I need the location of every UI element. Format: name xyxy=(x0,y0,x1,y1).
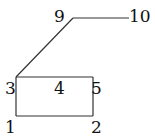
node-label-9: 9 xyxy=(54,6,65,26)
node-label-10: 10 xyxy=(129,6,151,26)
node-label-1: 1 xyxy=(5,117,16,137)
node-label-4: 4 xyxy=(54,78,65,98)
node-label-2: 2 xyxy=(91,117,102,137)
node-label-3: 3 xyxy=(5,78,16,98)
graph-diagram: 1 2 3 4 5 9 10 xyxy=(0,0,155,138)
node-label-5: 5 xyxy=(91,78,102,98)
edge-3-9 xyxy=(16,18,73,77)
